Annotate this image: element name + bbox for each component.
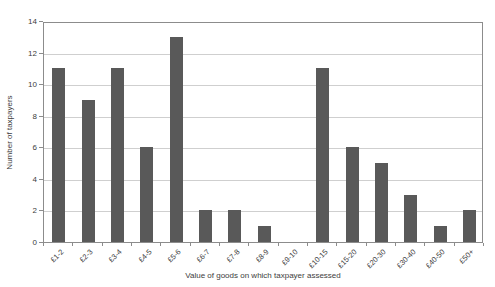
x-tick-12 bbox=[395, 243, 396, 246]
gridline-y-6 bbox=[44, 148, 482, 149]
bar-£7-8 bbox=[228, 210, 241, 242]
bar-£4-5 bbox=[140, 147, 153, 242]
chart-title-cropped: taxpayer assessments bbox=[284, 0, 364, 3]
gridline-y-8 bbox=[44, 117, 482, 118]
y-tick-label-12: 12 bbox=[17, 50, 37, 58]
x-tick-10 bbox=[336, 243, 337, 246]
y-axis-title: Number of taxpayers bbox=[5, 58, 14, 208]
y-tick-10 bbox=[39, 84, 43, 85]
x-tick-11 bbox=[366, 243, 367, 246]
y-tick-4 bbox=[39, 179, 43, 180]
y-tick-label-14: 14 bbox=[17, 18, 37, 26]
bar-£10-15 bbox=[316, 68, 329, 242]
x-tick-8 bbox=[278, 243, 279, 246]
x-tick-14 bbox=[454, 243, 455, 246]
x-tick-7 bbox=[248, 243, 249, 246]
x-tick-3 bbox=[131, 243, 132, 246]
bar-£3-4 bbox=[111, 68, 124, 242]
bar-£5-6 bbox=[170, 37, 183, 242]
bar-£8-9 bbox=[258, 226, 271, 242]
y-tick-2 bbox=[39, 210, 43, 211]
y-tick-14 bbox=[39, 21, 43, 22]
x-tick-4 bbox=[160, 243, 161, 246]
x-tick-1 bbox=[72, 243, 73, 246]
y-tick-8 bbox=[39, 116, 43, 117]
y-tick-label-10: 10 bbox=[17, 81, 37, 89]
gridline-y-10 bbox=[44, 85, 482, 86]
bar-£30-40 bbox=[404, 195, 417, 242]
bar-£6-7 bbox=[199, 210, 212, 242]
bar-£1-2 bbox=[52, 68, 65, 242]
bar-£40-50 bbox=[434, 226, 447, 242]
y-tick-label-0: 0 bbox=[17, 239, 37, 247]
gridline-y-4 bbox=[44, 180, 482, 181]
bar-£2-3 bbox=[82, 100, 95, 242]
y-tick-label-6: 6 bbox=[17, 144, 37, 152]
gridline-y-12 bbox=[44, 54, 482, 55]
plot-area bbox=[43, 22, 483, 243]
y-tick-12 bbox=[39, 53, 43, 54]
x-tick-13 bbox=[424, 243, 425, 246]
x-tick-9 bbox=[307, 243, 308, 246]
bar-£20-30 bbox=[375, 163, 388, 242]
y-tick-label-2: 2 bbox=[17, 207, 37, 215]
bar-£50+ bbox=[463, 210, 476, 242]
y-tick-label-4: 4 bbox=[17, 176, 37, 184]
x-tick-2 bbox=[102, 243, 103, 246]
y-tick-6 bbox=[39, 147, 43, 148]
x-tick-5 bbox=[190, 243, 191, 246]
y-tick-label-8: 8 bbox=[17, 113, 37, 121]
bar-£15-20 bbox=[346, 147, 359, 242]
x-tick-15 bbox=[483, 243, 484, 246]
x-tick-0 bbox=[43, 243, 44, 246]
x-tick-6 bbox=[219, 243, 220, 246]
bar-chart: taxpayer assessments Number of taxpayers… bbox=[0, 0, 495, 287]
